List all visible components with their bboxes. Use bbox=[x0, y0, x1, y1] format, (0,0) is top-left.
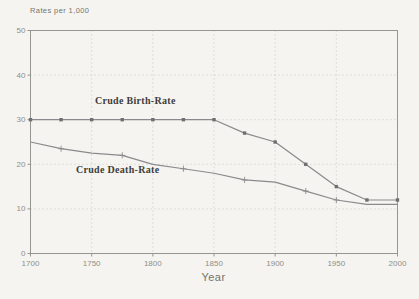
x-axis-title: Year bbox=[30, 271, 397, 283]
svg-text:0: 0 bbox=[21, 249, 26, 258]
chart-canvas: 010203040501700175018001850190019502000 bbox=[0, 0, 419, 299]
svg-text:2000: 2000 bbox=[389, 259, 407, 268]
demographic-transition-chart: Rates per 1,000 010203040501700175018001… bbox=[0, 0, 419, 299]
svg-text:1750: 1750 bbox=[83, 259, 101, 268]
death-rate-series-label: Crude Death-Rate bbox=[76, 164, 159, 175]
birth-rate-series-label: Crude Birth-Rate bbox=[95, 95, 176, 106]
svg-text:30: 30 bbox=[17, 115, 26, 124]
svg-text:1850: 1850 bbox=[205, 259, 223, 268]
svg-text:20: 20 bbox=[17, 160, 26, 169]
svg-text:1800: 1800 bbox=[144, 259, 162, 268]
svg-text:1700: 1700 bbox=[22, 259, 40, 268]
svg-text:10: 10 bbox=[17, 204, 26, 213]
svg-text:1900: 1900 bbox=[266, 259, 284, 268]
svg-text:40: 40 bbox=[17, 71, 26, 80]
svg-text:50: 50 bbox=[17, 26, 26, 35]
svg-text:1950: 1950 bbox=[327, 259, 345, 268]
